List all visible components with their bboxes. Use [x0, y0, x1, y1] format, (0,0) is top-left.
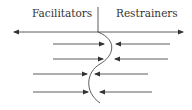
force-field-diagram: Facilitators Restrainers — [0, 0, 192, 110]
restrainers-label: Restrainers — [116, 7, 178, 19]
facilitators-label: Facilitators — [32, 7, 92, 19]
